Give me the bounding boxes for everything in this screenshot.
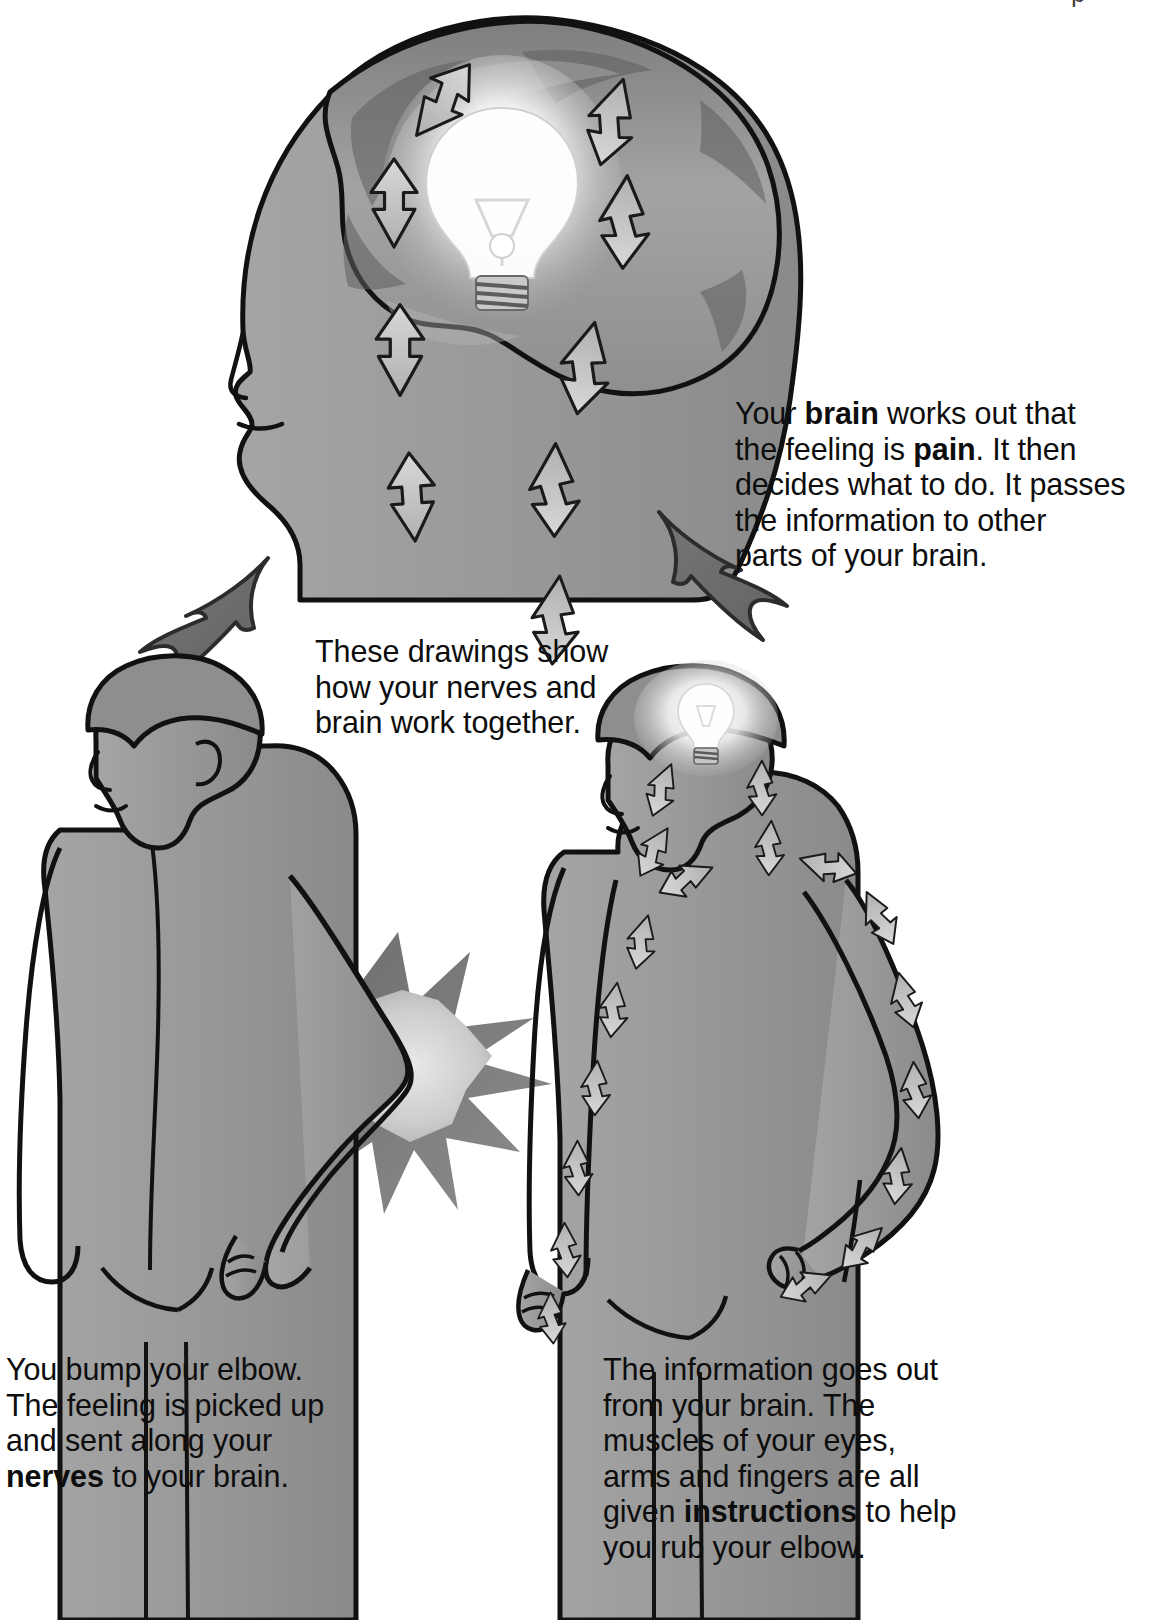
illustration-page: p (0, 0, 1165, 1620)
caption-bump-elbow: You bump your elbow.The feeling is picke… (6, 1352, 336, 1494)
caption-information-out: The information goes outfrom your brain.… (603, 1352, 1003, 1565)
caption-brain-decides: Your brain works out thatthe feeling is … (735, 396, 1155, 574)
caption-these-drawings: These drawings showhow your nerves andbr… (315, 634, 625, 741)
